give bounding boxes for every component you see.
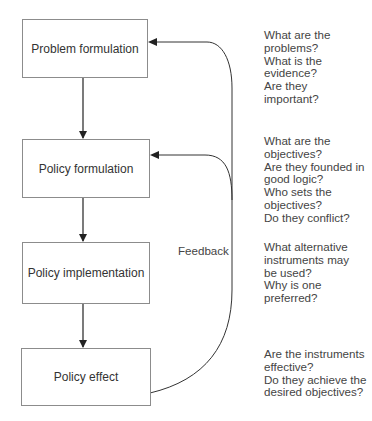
questions-problem: What are the problems? What is the evide…: [264, 29, 330, 106]
box-policy-formulation: Policy formulation: [22, 139, 150, 198]
feedback-loop-main: [150, 42, 232, 393]
question-line: important?: [264, 93, 330, 106]
questions-implementation: What alternative instruments may be used…: [264, 241, 349, 305]
questions-effect: Are the instruments effective? Do they a…: [264, 348, 366, 399]
question-line: What are the: [264, 135, 365, 148]
feedback-label: Feedback: [178, 244, 229, 257]
box-label: Policy formulation: [39, 162, 134, 176]
box-label: Problem formulation: [31, 42, 138, 56]
questions-policy: What are the objectives? Are they founde…: [264, 135, 365, 225]
feedback-arrowhead-top: [148, 38, 157, 46]
question-line: Do they conflict?: [264, 212, 365, 225]
feedback-loop-branch: [159, 155, 232, 200]
question-line: Are the instruments: [264, 348, 366, 361]
box-label: Policy implementation: [28, 266, 145, 280]
box-problem-formulation: Problem formulation: [22, 19, 148, 78]
question-line: What are the: [264, 29, 330, 42]
box-policy-implementation: Policy implementation: [22, 242, 150, 304]
question-line: preferred?: [264, 292, 349, 305]
question-line: desired objectives?: [264, 386, 366, 399]
question-line: problems?: [264, 42, 330, 55]
question-line: What alternative: [264, 241, 349, 254]
question-line: objectives?: [264, 199, 365, 212]
feedback-arrowhead-mid: [150, 151, 159, 159]
box-policy-effect: Policy effect: [21, 348, 151, 406]
question-line: effective?: [264, 361, 366, 374]
box-label: Policy effect: [54, 370, 118, 384]
question-line: instruments may: [264, 254, 349, 267]
question-line: objectives?: [264, 148, 365, 161]
